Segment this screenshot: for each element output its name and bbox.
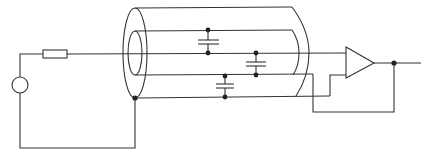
circuit-diagram <box>0 0 431 156</box>
capacitor-bottom <box>216 74 234 100</box>
capacitor-top <box>198 28 219 56</box>
capacitor-mid <box>246 51 266 78</box>
source-wires <box>20 54 135 148</box>
inner-guard <box>128 30 313 75</box>
amplifier <box>330 47 374 96</box>
shield-ground-junction <box>132 95 137 100</box>
resistor <box>43 50 67 58</box>
voltage-source <box>12 77 28 93</box>
output-and-feedback <box>313 60 421 112</box>
